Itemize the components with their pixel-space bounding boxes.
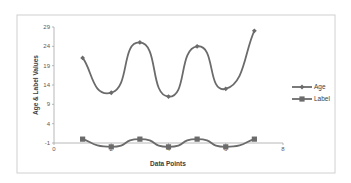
- y-tick-label: 14: [43, 82, 50, 88]
- y-tick-label: 19: [43, 63, 50, 69]
- square-marker: [252, 137, 257, 142]
- legend-label: Age: [314, 83, 326, 91]
- legend-square-icon: [299, 96, 304, 101]
- y-tick-label: 24: [43, 43, 50, 49]
- square-marker: [80, 137, 85, 142]
- square-marker: [166, 144, 171, 149]
- square-marker: [137, 137, 142, 142]
- square-marker: [223, 144, 228, 149]
- y-tick-label: 29: [43, 24, 50, 30]
- x-axis-title: Data Points: [150, 160, 186, 167]
- square-marker: [109, 144, 114, 149]
- y-axis-title: Age & Label Values: [32, 55, 40, 115]
- y-tick-label: -1: [45, 140, 51, 146]
- square-marker: [195, 137, 200, 142]
- line-chart: -1491419242902468 Data Points Age & Labe…: [0, 0, 351, 183]
- legend-label: Label: [314, 95, 330, 102]
